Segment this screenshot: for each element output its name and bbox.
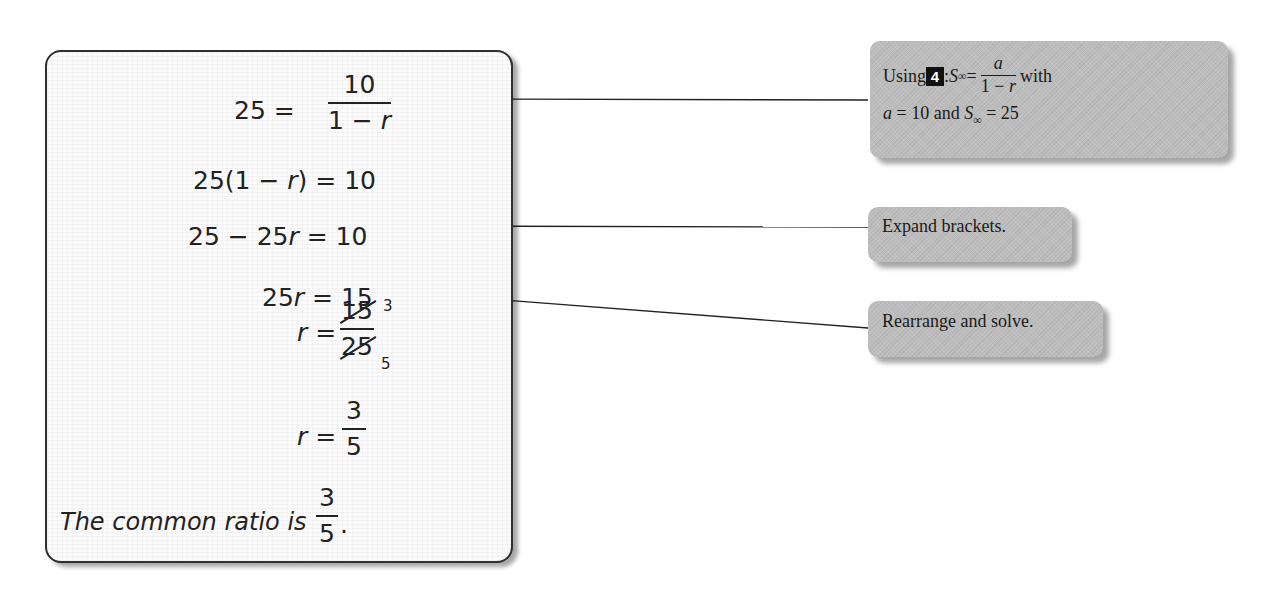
conclusion-fraction: 3 5 bbox=[316, 485, 338, 546]
step6-lhs: r = bbox=[297, 424, 336, 449]
step6-fraction: 3 5 bbox=[342, 398, 366, 459]
cancelled-numerator: 15 bbox=[341, 298, 373, 323]
step3-equation: 25 − 25r = 10 bbox=[188, 224, 367, 249]
callout-rearrange-solve: Rearrange and solve. bbox=[868, 301, 1103, 357]
fraction-bar bbox=[342, 428, 366, 430]
fraction-bar bbox=[316, 515, 338, 517]
cancelled-denominator: 25 bbox=[341, 334, 373, 359]
step1-fraction: 10 1 − r bbox=[328, 72, 391, 133]
conclusion-text: The common ratio is bbox=[60, 510, 307, 534]
step5-fraction: 15 25 bbox=[340, 298, 374, 359]
step2-equation: 25(1 − r) = 10 bbox=[193, 168, 376, 193]
step1-lhs: 25 = bbox=[234, 98, 295, 123]
simplified-numerator: 3 bbox=[383, 297, 393, 315]
fraction-bar bbox=[340, 328, 374, 330]
step1-numerator: 10 bbox=[344, 72, 376, 97]
step1-denominator: 1 − r bbox=[328, 108, 391, 133]
conclusion-period: . bbox=[340, 512, 348, 537]
sum-to-infinity-fraction: a 1 − r bbox=[981, 53, 1016, 97]
callout-expand-brackets: Expand brackets. bbox=[868, 207, 1072, 262]
step5-lhs: r = bbox=[297, 320, 336, 345]
callout-formula: Using 4 : S∞ = a 1 − r with a = 10 and S… bbox=[870, 41, 1228, 158]
simplified-denominator: 5 bbox=[381, 355, 391, 373]
key-point-badge: 4 bbox=[926, 67, 944, 86]
fraction-bar bbox=[328, 102, 391, 104]
